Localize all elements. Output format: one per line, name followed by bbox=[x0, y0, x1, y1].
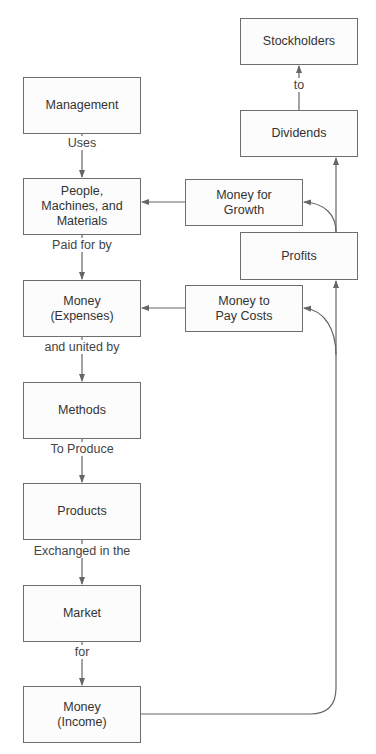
edge-label-uses: Uses bbox=[67, 136, 97, 150]
node-products: Products bbox=[23, 483, 141, 540]
node-management: Management bbox=[23, 77, 141, 134]
edge-label-for: for bbox=[74, 645, 91, 659]
node-expenses: Money (Expenses) bbox=[23, 280, 141, 337]
edge-label-exchanged-in-the: Exchanged in the bbox=[33, 544, 132, 558]
edge-label-and-united-by: and united by bbox=[43, 340, 120, 354]
edge-label-to-produce: To Produce bbox=[49, 442, 114, 456]
node-people: People, Machines, and Materials bbox=[23, 178, 141, 235]
node-market: Market bbox=[23, 585, 141, 642]
node-paycosts: Money to Pay Costs bbox=[185, 285, 303, 332]
node-growth: Money for Growth bbox=[185, 179, 303, 226]
node-profits: Profits bbox=[240, 232, 358, 280]
node-stockholders: Stockholders bbox=[240, 18, 358, 65]
node-dividends: Dividends bbox=[240, 110, 358, 157]
edge-label-to: to bbox=[293, 78, 305, 92]
node-income: Money (Income) bbox=[23, 686, 141, 743]
node-methods: Methods bbox=[23, 382, 141, 439]
edge-label-paid-for-by: Paid for by bbox=[51, 238, 113, 252]
